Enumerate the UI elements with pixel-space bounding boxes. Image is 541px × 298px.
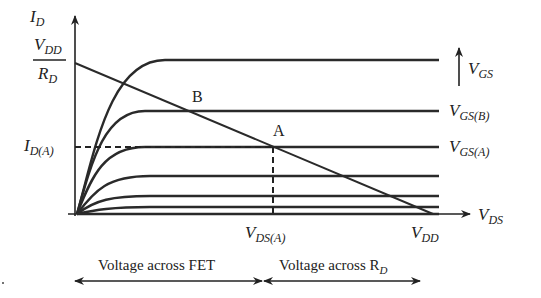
vgs-arrow-label: VGS xyxy=(468,59,493,81)
svg-text:RD: RD xyxy=(37,64,57,86)
voltage-across-fet-label: Voltage across FET xyxy=(98,257,215,273)
vgs-b-label: VGS(B) xyxy=(449,101,489,123)
y-intercept-label: VDD RD xyxy=(33,35,66,86)
x-axis-label: VDS xyxy=(478,205,503,227)
vds-a-label: VDS(A) xyxy=(245,223,285,245)
y-axis-label: ID xyxy=(29,7,45,29)
fet-load-line-diagram: ID VDD RD ID(A) B A VGS VGS(B) VGS(A) VD… xyxy=(0,0,541,298)
load-line xyxy=(75,63,433,214)
characteristic-curves xyxy=(77,60,439,214)
svg-text:VDD: VDD xyxy=(34,35,62,57)
id-a-label: ID(A) xyxy=(23,136,54,158)
point-b-label: B xyxy=(192,88,203,105)
vgs-a-label: VGS(A) xyxy=(449,137,489,159)
x-intercept-label: VDD xyxy=(411,223,439,245)
voltage-across-rd-label: Voltage across RD xyxy=(279,257,388,276)
stray-dot xyxy=(2,282,4,284)
point-a-label: A xyxy=(273,122,285,139)
